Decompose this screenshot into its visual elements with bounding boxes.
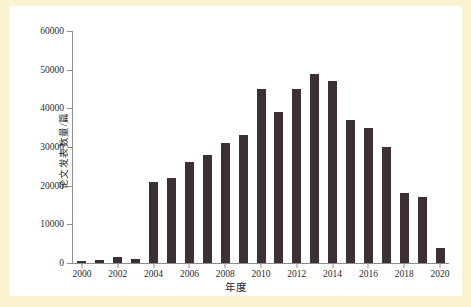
y-axis-title: 论文发表数量/篇 [56,113,70,190]
bar-slot [127,31,145,263]
bar-slot [360,31,378,263]
bar-slot [377,31,395,263]
bar-slot [180,31,198,263]
x-tick-label: 2018 [395,269,414,279]
chart-page: 论文发表数量/篇 0100002000030000400005000060000… [0,0,471,307]
bar [149,182,158,263]
x-tick-mark [261,263,262,268]
x-tick: 2012 [287,263,306,279]
x-tick-mark [368,263,369,268]
bar [310,74,319,263]
bar-slot [163,31,181,263]
bar [418,197,427,263]
x-tick: 2016 [359,263,378,279]
bar-series [73,31,449,263]
x-tick: 2000 [72,263,91,279]
bar [364,128,373,263]
bar-slot [342,31,360,263]
bar-slot [395,31,413,263]
bar-slot [306,31,324,263]
x-tick-mark [81,263,82,268]
bar [167,178,176,263]
x-tick-mark [296,263,297,268]
x-tick-label: 2006 [180,269,199,279]
x-tick-mark [225,263,226,268]
x-tick-mark [153,263,154,268]
bar [400,193,409,263]
bar [346,120,355,263]
x-tick-label: 2004 [144,269,163,279]
bar-slot [73,31,91,263]
x-tick-mark [404,263,405,268]
x-tick-label: 2008 [216,269,235,279]
x-tick-mark [440,263,441,268]
bar [382,147,391,263]
bar [221,143,230,263]
plot-area: 0100002000030000400005000060000 20002002… [72,31,449,264]
bar [328,81,337,263]
x-tick: 2020 [431,263,450,279]
bar-slot [288,31,306,263]
bar-slot [324,31,342,263]
x-tick-label: 2000 [72,269,91,279]
bar [185,162,194,263]
bar-slot [198,31,216,263]
x-tick-label: 2020 [431,269,450,279]
bar [274,112,283,263]
bar-slot [109,31,127,263]
bar [239,135,248,263]
bar-slot [91,31,109,263]
x-tick-label: 2014 [323,269,342,279]
bar-slot [252,31,270,263]
y-tick-label: 10000 [40,218,64,231]
x-tick-label: 2012 [287,269,306,279]
x-tick: 2018 [395,263,414,279]
bar-slot [270,31,288,263]
x-tick-label: 2010 [252,269,271,279]
y-tick-label: 60000 [40,25,64,38]
y-tick-label: 50000 [40,64,64,77]
x-tick: 2004 [144,263,163,279]
x-tick: 2014 [323,263,342,279]
bar [257,89,266,263]
x-tick: 2008 [216,263,235,279]
x-tick: 2006 [180,263,199,279]
x-tick-label: 2016 [359,269,378,279]
bar-slot [234,31,252,263]
x-tick-label: 2002 [108,269,127,279]
x-tick: 2010 [252,263,271,279]
bar [292,89,301,263]
x-tick-mark [189,263,190,268]
figure-canvas: 论文发表数量/篇 0100002000030000400005000060000… [9,6,462,296]
x-tick: 2002 [108,263,127,279]
bar-slot [431,31,449,263]
bar-slot [216,31,234,263]
y-tick-label: 0 [59,257,64,270]
bar-slot [413,31,431,263]
x-tick-mark [332,263,333,268]
bar [203,155,212,263]
x-axis-title: 年度 [9,279,462,294]
bar [436,248,445,263]
x-tick-mark [117,263,118,268]
bar-slot [145,31,163,263]
